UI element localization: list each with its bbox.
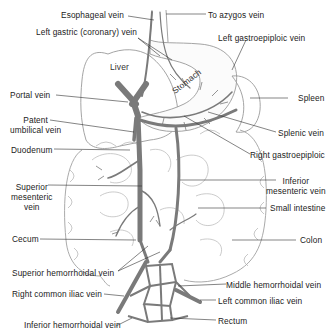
label-right-gastroepiploic: Right gastroepiploic <box>250 150 325 160</box>
label-superior-mesenteric-vein: Superior mesenteric vein <box>11 182 53 212</box>
label-left-common-iliac-vein: Left common iliac vein <box>218 296 302 306</box>
label-duodenum: Duodenum <box>11 145 52 155</box>
label-small-intestine: Small intestine <box>270 203 325 213</box>
label-rectum: Rectum <box>218 316 247 326</box>
label-esophageal-vein: Esophageal vein <box>61 10 124 20</box>
liver-label: Liver <box>110 62 129 72</box>
label-splenic-vein: Splenic vein <box>278 128 324 138</box>
label-superior-hemorrhoidal-vein: Superior hemorrhoidal vein <box>12 268 114 278</box>
label-right-common-iliac-vein: Right common iliac vein <box>12 289 102 299</box>
label-colon: Colon <box>300 235 322 245</box>
label-inferior-hemorrhoidal-vein: Inferior hemorrhoidal vein <box>24 320 121 330</box>
label-portal-vein: Portal vein <box>10 90 50 100</box>
label-inferior-mesenteric-vein: Inferior mesenteric vein <box>266 176 326 196</box>
portal-venous-system-diagram: Liver Stomach Esophageal vein Left gastr… <box>0 0 332 336</box>
label-patent-umbilical-vein: Patent umbilical vein <box>10 115 61 135</box>
label-left-gastroepiploic-vein: Left gastroepiploic vein <box>218 33 305 43</box>
label-to-azygos-vein: To azygos vein <box>208 10 264 20</box>
label-cecum: Cecum <box>12 234 39 244</box>
label-spleen: Spleen <box>298 93 324 103</box>
label-left-gastric-vein: Left gastric (coronary) vein <box>36 27 137 37</box>
label-middle-hemorrhoidal-vein: Middle hemorrhoidal vein <box>226 280 321 290</box>
colon-haustra <box>68 130 264 266</box>
